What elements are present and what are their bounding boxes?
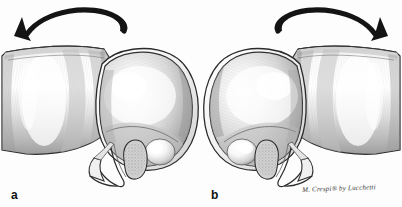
fibrocartilage-disc (255, 140, 279, 179)
rotation-arrow-left (14, 10, 125, 41)
panel-b-drawing (201, 0, 402, 207)
panel-a: a (0, 0, 201, 207)
fibrocartilage-disc (124, 140, 148, 179)
rotation-arrow-right (277, 10, 388, 41)
panel-b: b (201, 0, 402, 207)
panel-a-drawing (0, 0, 201, 207)
panel-label-a: a (11, 189, 18, 201)
bone-tubercle (227, 139, 257, 165)
bone-tubercle (145, 139, 175, 165)
panel-label-b: b (211, 189, 218, 201)
anatomical-figure: a (0, 0, 402, 207)
